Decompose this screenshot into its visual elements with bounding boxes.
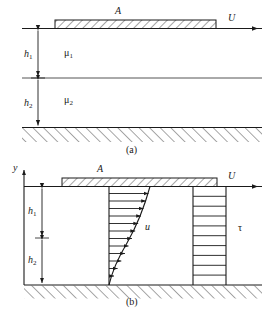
panel-b-plate-label: A [97, 164, 103, 174]
panel-b-dimension-h1 [35, 187, 49, 239]
panel-b-shear-profile-label-tau: τ [238, 223, 242, 233]
panel-b-caption: (b) [126, 297, 138, 307]
panel-b-axis-label-y: y [13, 163, 17, 173]
panel-b-shear-profile [193, 187, 226, 286]
panel-a-height-label-h2: h2 [24, 98, 33, 110]
panel-b-velocity-label-U: U [228, 171, 235, 181]
panel-a-plate-label: A [115, 6, 121, 16]
panel-a-viscosity-label-mu2: μ2 [64, 95, 73, 107]
panel-a-dimension-h1 [31, 29, 45, 79]
panel-a-velocity-label-U: U [228, 13, 235, 23]
panel-b-ground-hatch [24, 286, 262, 299]
panel-b-velocity-arrows [109, 194, 149, 277]
panel-a-plate-A [55, 20, 216, 29]
panel-b-velocity-profile-label-u: u [145, 222, 150, 232]
panel-a-viscosity-label-mu1: μ1 [64, 48, 73, 60]
panel-b-plate-A [62, 178, 217, 187]
panel-b [24, 170, 262, 299]
panel-b-height-label-h2: h2 [28, 255, 37, 267]
panel-a-height-label-h1: h1 [24, 49, 33, 61]
figure-two-layer-couette-flow [0, 0, 271, 311]
panel-a-caption: (a) [126, 145, 137, 155]
panel-a [22, 20, 262, 142]
panel-a-dimension-h2 [31, 80, 45, 128]
panel-b-height-label-h1: h1 [28, 206, 37, 218]
panel-a-ground-hatch [22, 128, 262, 142]
